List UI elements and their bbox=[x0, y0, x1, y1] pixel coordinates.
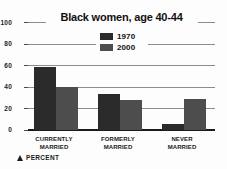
category-label-never-married: NEVER MARRIED bbox=[150, 136, 214, 151]
y-tick-label-40: 40 bbox=[0, 83, 12, 90]
y-tick-label-20: 20 bbox=[0, 105, 12, 112]
triangle-up-icon bbox=[17, 155, 23, 161]
bar-1970-currently-married bbox=[34, 67, 56, 130]
chart-title: Black women, age 40-44 bbox=[28, 11, 215, 23]
legend-swatch-1970 bbox=[100, 33, 113, 40]
chart-figure: 100 80 60 40 20 0 Black women, age 40- bbox=[0, 0, 227, 169]
category-label-line-1: FORMERLY bbox=[86, 136, 150, 144]
bar-2000-currently-married bbox=[56, 87, 78, 130]
footer-label: PERCENT bbox=[26, 154, 59, 161]
category-label-currently-married: CURRENTLY MARRIED bbox=[22, 136, 86, 151]
legend-label-2000: 2000 bbox=[117, 43, 135, 52]
y-tick-label-100: 100 bbox=[0, 19, 12, 26]
footer: PERCENT bbox=[17, 154, 59, 161]
y-tick-label-0: 0 bbox=[0, 126, 12, 133]
legend-label-1970: 1970 bbox=[117, 32, 135, 41]
y-tick-label-60: 60 bbox=[0, 62, 12, 69]
gridline-60 bbox=[28, 65, 215, 66]
category-label-line-1: CURRENTLY bbox=[22, 136, 86, 144]
legend: 1970 2000 bbox=[100, 31, 135, 53]
category-label-formerly-married: FORMERLY MARRIED bbox=[86, 136, 150, 151]
legend-item-2000: 2000 bbox=[100, 42, 135, 52]
category-label-line-2: MARRIED bbox=[150, 144, 214, 152]
legend-swatch-2000 bbox=[100, 44, 113, 51]
bar-1970-never-married bbox=[162, 124, 184, 131]
legend-item-1970: 1970 bbox=[100, 31, 135, 41]
bar-2000-never-married bbox=[184, 99, 206, 130]
category-label-line-2: MARRIED bbox=[22, 144, 86, 152]
bar-1970-formerly-married bbox=[98, 94, 120, 130]
category-label-line-2: MARRIED bbox=[86, 144, 150, 152]
bar-2000-formerly-married bbox=[120, 100, 142, 130]
category-label-line-1: NEVER bbox=[150, 136, 214, 144]
y-tick-label-80: 80 bbox=[0, 40, 12, 47]
